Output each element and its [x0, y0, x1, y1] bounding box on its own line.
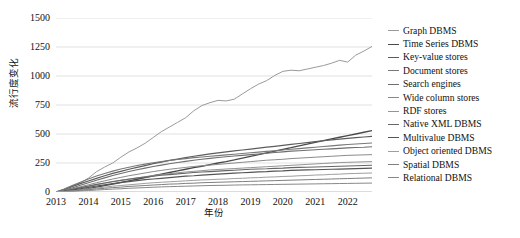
legend-line-icon — [388, 97, 399, 98]
y-axis-tick-label: 1250 — [16, 42, 50, 52]
legend-line-icon — [388, 111, 399, 112]
legend-item[interactable]: Graph DBMS — [388, 24, 520, 37]
legend-item-label: Document stores — [403, 66, 468, 76]
y-axis-tick-label: 1000 — [16, 71, 50, 81]
legend-item-label: Native XML DBMS — [403, 119, 482, 129]
legend-item[interactable]: Search engines — [388, 78, 520, 91]
legend-item-label: Graph DBMS — [403, 26, 457, 36]
chart-figure: 流行度变化 0250500750100012501500 20132014201… — [0, 0, 520, 238]
legend-line-icon — [388, 124, 399, 125]
legend-item[interactable]: Multivalue DBMS — [388, 131, 520, 144]
legend-item-label: Object oriented DBMS — [403, 146, 492, 156]
legend-item[interactable]: Key-value stores — [388, 51, 520, 64]
legend-item-label: Relational DBMS — [403, 173, 472, 183]
legend-item-label: Multivalue DBMS — [403, 133, 475, 143]
legend-line-icon — [388, 57, 399, 58]
legend-line-icon — [388, 84, 399, 85]
plot-area — [56, 18, 372, 192]
legend-item-label: Key-value stores — [403, 52, 468, 62]
legend-line-icon — [388, 70, 399, 71]
legend-line-icon — [388, 164, 399, 165]
legend-item[interactable]: Object oriented DBMS — [388, 145, 520, 158]
y-axis-tick-label: 250 — [16, 158, 50, 168]
legend-item-label: Wide column stores — [403, 93, 479, 103]
y-axis-tick-label: 1500 — [16, 13, 50, 23]
y-axis-tick-label: 750 — [16, 100, 50, 110]
legend-item-label: Time Series DBMS — [403, 39, 478, 49]
legend-item-label: Search engines — [403, 79, 461, 89]
legend-line-icon — [388, 137, 399, 138]
y-axis-tick-label: 500 — [16, 129, 50, 139]
legend-line-icon — [388, 30, 399, 31]
legend-line-icon — [388, 151, 399, 152]
legend-item[interactable]: Spatial DBMS — [388, 158, 520, 171]
legend-item[interactable]: Wide column stores — [388, 91, 520, 104]
legend-item[interactable]: RDF stores — [388, 104, 520, 117]
legend-item[interactable]: Relational DBMS — [388, 171, 520, 184]
legend-line-icon — [388, 177, 399, 178]
x-axis-title: 年份 — [56, 208, 372, 219]
legend-item-label: Spatial DBMS — [403, 160, 459, 170]
chart-legend: Graph DBMSTime Series DBMSKey-value stor… — [388, 24, 520, 185]
legend-item[interactable]: Time Series DBMS — [388, 37, 520, 50]
x-axis-tick-label: 2022 — [328, 196, 368, 207]
legend-line-icon — [388, 44, 399, 45]
legend-item[interactable]: Document stores — [388, 64, 520, 77]
legend-item[interactable]: Native XML DBMS — [388, 118, 520, 131]
legend-item-label: RDF stores — [403, 106, 446, 116]
